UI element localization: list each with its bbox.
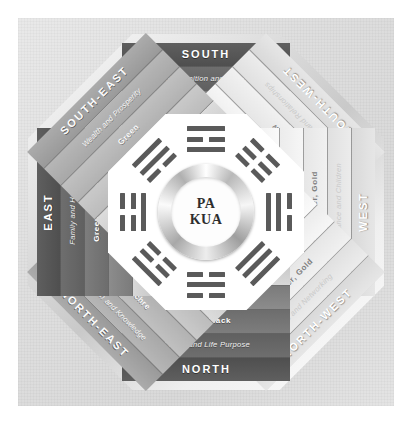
trigram-line-2-solid [277,193,282,231]
trigram-line-1-broken [120,193,125,231]
trigram-kun-icon [235,138,280,183]
trigram-line-2-broken [187,137,225,142]
center-label: PA KUA [171,177,241,247]
trigram-ken-icon [132,241,177,286]
trigram-chien-icon [235,241,280,286]
band-label-dir-south: SOUTH [182,49,231,60]
trigram-li-icon [187,126,225,152]
pa-kua-wheel: SOUTHRecognition and FameRedFIRELISOUTH-… [28,34,384,390]
trigram-line-1-broken [187,293,225,298]
trigram-kan-icon [187,272,225,298]
band-label-dir-west: WEST [358,192,369,232]
trigram-sun-icon [132,138,177,183]
band-label-dir-east: EAST [43,193,54,230]
pa-kua-diagram: SOUTHRecognition and FameRedFIRELISOUTH-… [0,0,412,424]
band-label-dir-north: NORTH [181,364,230,375]
trigram-tui-icon [266,193,292,231]
trigram-line-1-solid [187,126,225,131]
trigram-line-2-solid [187,283,225,288]
trigram-line-3-broken [187,272,225,277]
center-label-line1: PA [197,196,216,212]
trigram-line-1-broken [287,193,292,231]
trigram-line-2-broken [131,193,136,231]
trigram-line-3-solid [141,193,146,231]
trigram-line-3-solid [187,147,225,152]
trigram-line-3-solid [266,193,271,231]
center-label-line2: KUA [190,212,223,228]
trigram-line-1-solid [250,256,280,286]
trigram-chen-icon [120,193,146,231]
